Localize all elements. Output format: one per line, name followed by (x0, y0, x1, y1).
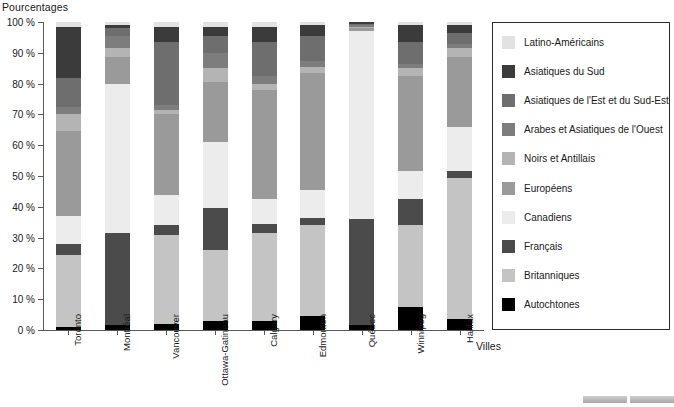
bar-segment (398, 76, 423, 171)
y-axis-tick-label: 90 % (12, 47, 35, 58)
bar-segment (447, 127, 472, 172)
bar-segment (398, 225, 423, 307)
bar-segment (300, 36, 325, 61)
bar-segment (105, 233, 130, 325)
legend-item[interactable]: Asiatiques de l'Est et du Sud-Est (502, 93, 669, 107)
bar-qu-bec[interactable] (349, 22, 374, 330)
bar-segment (349, 219, 374, 325)
bar-segment (349, 31, 374, 219)
legend-swatch-icon (502, 65, 515, 78)
bar-segment (252, 90, 277, 199)
y-axis-tick-label: 50 % (12, 171, 35, 182)
y-axis-tick-label: 60 % (12, 140, 35, 151)
y-axis-tick (38, 299, 43, 300)
bar-segment (105, 36, 130, 48)
legend-swatch-icon (502, 152, 515, 165)
bar-segment (56, 114, 81, 131)
bar-halifax[interactable] (447, 22, 472, 330)
legend-swatch-icon (502, 211, 515, 224)
legend-item[interactable]: Autochtones (502, 298, 580, 312)
x-axis-tick (460, 330, 461, 335)
x-axis-label-toronto: Toronto (72, 314, 83, 346)
x-axis-label-calgary: Calgary (268, 314, 279, 347)
x-axis-label-ottawa-gatineau: Ottawa-Gatineau (219, 314, 230, 386)
legend-item[interactable]: Britanniques (502, 269, 580, 283)
bar-calgary[interactable] (252, 22, 277, 330)
bar-segment (252, 233, 277, 321)
legend-item[interactable]: Européens (502, 181, 572, 195)
x-axis-label-vancouver: Vancouver (170, 314, 181, 359)
x-axis-tick (68, 330, 69, 335)
legend: Latino-AméricainsAsiatiques du SudAsiati… (492, 22, 670, 330)
bar-vancouver[interactable] (154, 22, 179, 330)
y-axis-tick (38, 330, 43, 331)
bar-segment (105, 28, 130, 36)
bar-segment (300, 73, 325, 190)
legend-swatch-icon (502, 240, 515, 253)
y-axis-tick (38, 176, 43, 177)
bar-segment (447, 57, 472, 126)
bar-segment (252, 224, 277, 233)
stacked-bar-chart: Pourcentages Villes 0 %10 %20 %30 %40 %5… (0, 0, 674, 407)
x-axis-title: Villes (476, 340, 501, 352)
bar-segment (154, 114, 179, 194)
bar-segment (300, 225, 325, 316)
x-axis-label-edmonton: Edmonton (317, 314, 328, 357)
y-axis-tick-label: 40 % (12, 201, 35, 212)
bar-montr-al[interactable] (105, 22, 130, 330)
bar-edmonton[interactable] (300, 22, 325, 330)
bar-segment (300, 25, 325, 36)
y-axis-tick (38, 145, 43, 146)
bar-segment (154, 225, 179, 234)
bar-segment (105, 84, 130, 233)
legend-item[interactable]: Latino-Américains (502, 35, 604, 49)
bar-segment (56, 27, 81, 78)
x-axis-tick (264, 330, 265, 335)
y-axis-tick-label: 10 % (12, 294, 35, 305)
legend-item[interactable]: Canadiens (502, 210, 572, 224)
bar-toronto[interactable] (56, 22, 81, 330)
bar-segment (447, 33, 472, 44)
x-axis-tick (362, 330, 363, 335)
bar-segment (203, 68, 228, 82)
legend-label: Asiatiques du Sud (524, 66, 605, 77)
y-axis-tick (38, 22, 43, 23)
legend-label: Britanniques (524, 270, 580, 281)
bar-segment (154, 195, 179, 226)
bar-segment (203, 36, 228, 53)
y-axis-title: Pourcentages (2, 1, 68, 13)
legend-item[interactable]: Arabes et Asiatiques de l'Ouest (502, 123, 663, 137)
legend-label: Latino-Américains (524, 37, 604, 48)
legend-item[interactable]: Noirs et Antillais (502, 152, 595, 166)
y-axis-tick (38, 207, 43, 208)
bar-segment (154, 27, 179, 42)
bar-winnipeg[interactable] (398, 22, 423, 330)
bar-segment (203, 250, 228, 321)
y-axis-tick (38, 238, 43, 239)
y-axis-tick (38, 268, 43, 269)
bar-segment (447, 25, 472, 33)
bar-segment (398, 171, 423, 199)
bar-ottawa-gatineau[interactable] (203, 22, 228, 330)
footer-strip-right (630, 396, 674, 403)
bar-segment (56, 78, 81, 107)
x-axis-label-winnipeg: Winnipeg (415, 314, 426, 354)
legend-swatch-icon (502, 298, 515, 311)
bar-segment (398, 68, 423, 76)
bar-segment (105, 57, 130, 83)
legend-label: Autochtones (524, 299, 580, 310)
y-axis-tick-label: 70 % (12, 109, 35, 120)
y-axis-tick (38, 53, 43, 54)
bar-segment (203, 208, 228, 250)
legend-item[interactable]: Français (502, 239, 562, 253)
bar-segment (252, 199, 277, 224)
bar-segment (447, 178, 472, 320)
footer-strip-left (583, 396, 627, 403)
legend-item[interactable]: Asiatiques du Sud (502, 64, 605, 78)
bar-segment (56, 131, 81, 216)
y-axis-tick-label: 100 % (7, 17, 35, 28)
legend-swatch-icon (502, 182, 515, 195)
bar-segment (398, 42, 423, 64)
bar-segment (300, 218, 325, 226)
y-axis-tick-label: 20 % (12, 263, 35, 274)
